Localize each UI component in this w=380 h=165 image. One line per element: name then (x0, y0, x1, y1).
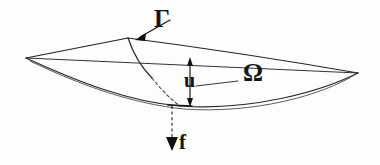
omega-leader-line (196, 81, 238, 86)
load-application-tick (168, 105, 192, 106)
gamma-curve-solid (128, 38, 152, 78)
edge-top-left (26, 38, 128, 58)
figure-container: Γ Ω u f (0, 0, 380, 165)
label-omega-domain: Ω (243, 60, 263, 85)
gamma-curve-hidden (152, 78, 180, 106)
label-u-displacement: u (184, 70, 195, 90)
label-gamma-boundary: Γ (154, 6, 170, 31)
label-f-force: f (179, 132, 186, 153)
force-arrow-f (166, 106, 178, 151)
